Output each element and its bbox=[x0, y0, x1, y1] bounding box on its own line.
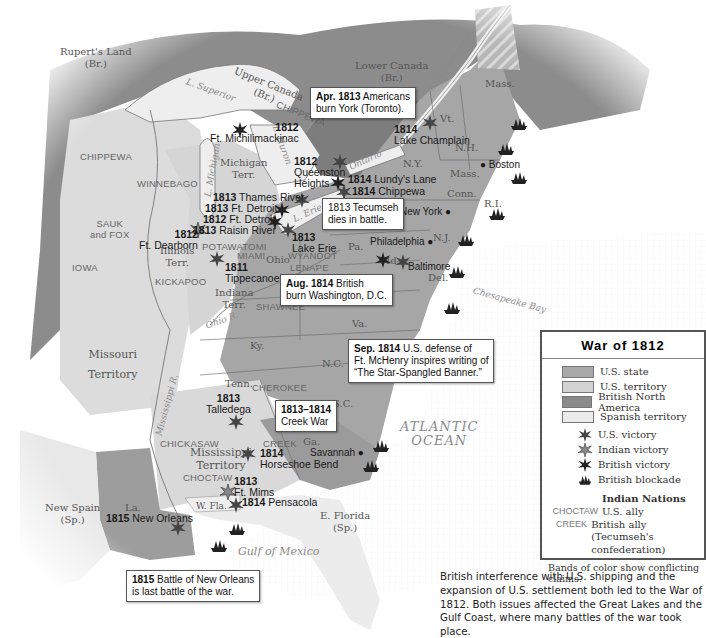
british-blockade-icon bbox=[497, 143, 515, 155]
callout-tecumseh: 1813 Tecumsehdies in battle. bbox=[322, 198, 404, 230]
legend-british-north-america: British North America bbox=[542, 394, 704, 409]
nation-lenape: LENAPE bbox=[290, 262, 329, 273]
city-philadelphia: Philadelphia ● bbox=[370, 237, 433, 248]
city-new-york: New York ● bbox=[400, 207, 451, 218]
battle-label-lake-champlain: 1814Lake Champlain bbox=[394, 124, 470, 146]
british-blockade-icon bbox=[457, 234, 475, 246]
nation-cherokee: CHEROKEE bbox=[252, 382, 307, 393]
water-gulf-of-mexico: Gulf of Mexico bbox=[238, 545, 319, 558]
battle-label-talledega: 1813Talledega bbox=[206, 393, 251, 415]
battle-label-pensacola: 1814 Pensacola bbox=[242, 497, 317, 508]
spanish-territory-swatch bbox=[562, 411, 594, 423]
region-missouri-territory: MissouriTerritory bbox=[88, 345, 138, 385]
nation-sauk-fox: SAUKand FOX bbox=[90, 218, 129, 241]
region-indiana-terr: IndianaTerr. bbox=[215, 287, 253, 310]
british-blockade-icon bbox=[488, 208, 506, 220]
region-lower-canada: Lower Canada(Br.) bbox=[355, 60, 428, 83]
city-boston: ● Boston bbox=[480, 160, 520, 171]
legend-us-victory: U.S. victory bbox=[542, 427, 704, 442]
british-blockade-icon bbox=[362, 460, 380, 472]
british-blockade-icon bbox=[228, 523, 246, 535]
battle-label-new-orleans: 1815 New Orleans bbox=[106, 513, 193, 524]
battle-label-ft-dearborn: 1812Ft. Dearborn bbox=[139, 229, 198, 251]
us-victory-icon bbox=[240, 446, 256, 462]
callout-york: Apr. 1813 Americansburn York (Toronto). bbox=[310, 87, 416, 119]
state-nj: N.J. bbox=[433, 232, 451, 244]
nation-chickasaw: CHICKASAW bbox=[160, 438, 219, 449]
indian-victory-icon bbox=[578, 443, 592, 457]
legend-title: War of 1812 bbox=[542, 332, 704, 359]
legend-spanish-territory: Spanish territory bbox=[542, 409, 704, 424]
nation-kickapoo: KICKAPOO bbox=[155, 276, 206, 287]
us-territory-swatch bbox=[562, 381, 594, 393]
nation-iowa: IOWA bbox=[72, 262, 98, 273]
callout-mchenry: Sep. 1814 U.S. defense ofFt. McHenry ins… bbox=[348, 339, 494, 383]
battle-label-raisin-river: 1813 Raisin River bbox=[193, 225, 276, 236]
us-victory-icon bbox=[395, 254, 411, 270]
region-east-florida: E. Florida(Sp.) bbox=[320, 510, 370, 533]
battle-label-ft-mims: 1813Ft. Mims bbox=[234, 476, 274, 498]
legend-british-blockade: British blockade bbox=[542, 472, 704, 487]
city-baltimore: Baltimore bbox=[408, 262, 450, 273]
nation-miami: MIAMI bbox=[237, 250, 265, 261]
nation-chippewa-west: CHIPPEWA bbox=[80, 151, 132, 162]
battle-label-queenston: 1812QueenstonHeights bbox=[294, 156, 345, 189]
state-ky: Ky. bbox=[250, 340, 264, 352]
water-atlantic-ocean: ATLANTICOCEAN bbox=[400, 420, 479, 449]
state-tenn: Tenn. bbox=[225, 378, 253, 390]
state-conn: Conn. bbox=[447, 188, 477, 200]
british-blockade-icon bbox=[510, 118, 528, 130]
state-mass: Mass. bbox=[450, 168, 480, 180]
map-legend: War of 1812 U.S. state U.S. territory Br… bbox=[540, 330, 706, 560]
map-caption: British interference with U.S. shipping … bbox=[440, 570, 706, 638]
battle-label-chippewa: 1814 Chippewa bbox=[352, 186, 425, 197]
british-blockade-icon bbox=[443, 302, 461, 314]
state-vt: Vt. bbox=[440, 113, 454, 125]
british-victory-icon bbox=[375, 252, 391, 268]
region-new-spain: New Spain(Sp.) bbox=[45, 502, 100, 525]
region-west-florida: W. Fla. bbox=[196, 501, 227, 511]
state-nc: N.C. bbox=[322, 358, 344, 370]
us-victory-icon bbox=[209, 251, 225, 267]
battle-label-michilimackinac: 1812Ft. Michilimackinac bbox=[210, 122, 299, 144]
legend-indian-nations-heading: Indian Nations bbox=[602, 493, 704, 504]
region-ruperts-land: Rupert's Land(Br.) bbox=[60, 46, 132, 69]
british-blockade-icon bbox=[448, 266, 466, 278]
state-va: Va. bbox=[352, 318, 367, 330]
callout-creek-war: 1813–1814Creek War bbox=[275, 400, 337, 432]
state-ny: N.Y. bbox=[403, 158, 423, 170]
nation-choctaw: CHOCTAW bbox=[183, 472, 232, 483]
british-blockade-icon bbox=[578, 473, 592, 487]
british-na-swatch bbox=[562, 396, 592, 408]
state-mass-north: Mass. bbox=[485, 78, 515, 90]
state-pa: Pa. bbox=[348, 241, 363, 253]
battle-label-horseshoe-bend: 1814Horseshoe Bend bbox=[260, 448, 338, 470]
british-blockade-icon bbox=[372, 440, 390, 452]
british-blockade-icon bbox=[210, 540, 228, 552]
battle-label-lundys-lane: 1814 Lundy's Lane bbox=[348, 174, 436, 185]
callout-new-orleans: 1815 Battle of New Orleansis last battle… bbox=[126, 570, 260, 602]
region-michigan-terr: MichiganTerr. bbox=[220, 157, 267, 180]
legend-indian-victory: Indian victory bbox=[542, 442, 704, 457]
legend-british-victory: British victory bbox=[542, 457, 704, 472]
us-victory-icon bbox=[578, 428, 592, 442]
legend-us-state: U.S. state bbox=[542, 364, 704, 379]
british-victory-icon bbox=[578, 458, 592, 472]
battle-label-tippecanoe: 1811Tippecanoe bbox=[225, 262, 279, 284]
state-ga: Ga. bbox=[303, 436, 320, 448]
us-victory-icon bbox=[228, 414, 244, 430]
legend-choctaw: CHOCTAWU.S. ally bbox=[542, 506, 704, 519]
callout-washington: Aug. 1814 Britishburn Washington, D.C. bbox=[280, 274, 393, 306]
legend-creek: CREEKBritish ally(Tecumseh's confederati… bbox=[542, 519, 704, 557]
state-del: Del. bbox=[428, 272, 448, 284]
nation-winnebago: WINNEBAGO bbox=[137, 178, 198, 189]
us-state-swatch bbox=[562, 366, 594, 378]
british-blockade-icon bbox=[510, 172, 528, 184]
battle-label-lake-erie: 1813Lake Erie bbox=[292, 232, 336, 254]
